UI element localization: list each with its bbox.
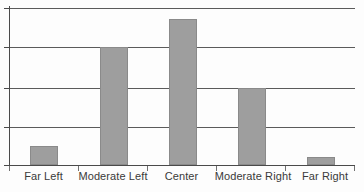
page-bottom-edge <box>0 192 364 195</box>
x-axis-category-labels: Far Left Moderate Left Center Moderate R… <box>0 169 364 191</box>
bar-moderate-left[interactable] <box>100 47 128 165</box>
x-label-moderate-left: Moderate Left <box>75 169 151 184</box>
x-label-center: Center <box>150 169 213 184</box>
x-label-moderate-right: Moderate Right <box>211 169 295 184</box>
bars-layer <box>0 0 364 195</box>
bar-far-right[interactable] <box>307 157 335 165</box>
bar-center[interactable] <box>169 19 197 165</box>
bar-moderate-right[interactable] <box>238 88 266 165</box>
bar-chart-figure: Far Left Moderate Left Center Moderate R… <box>0 0 364 195</box>
bar-far-left[interactable] <box>30 146 58 165</box>
x-label-far-left: Far Left <box>9 169 78 184</box>
x-label-far-right: Far Right <box>293 169 357 184</box>
